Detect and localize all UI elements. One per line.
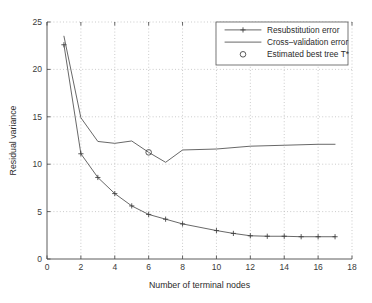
x-tick-label: 2	[79, 262, 84, 272]
legend-label: Resubstitution error	[267, 25, 340, 35]
residual-variance-chart: 024681012141618 0510152025 Number of ter…	[0, 0, 372, 303]
y-tick-label: 25	[33, 17, 43, 27]
legend-label: Estimated best tree T*	[267, 49, 350, 59]
x-axis-tick-labels: 024681012141618	[45, 262, 357, 272]
y-tick-label: 0	[37, 254, 42, 264]
x-tick-label: 6	[146, 262, 151, 272]
legend-label: Cross–validation error	[267, 37, 348, 47]
x-axis-title: Number of terminal nodes	[149, 280, 251, 290]
x-tick-label: 4	[112, 262, 117, 272]
y-tick-label: 5	[37, 207, 42, 217]
chart-legend[interactable]: Resubstitution errorCross–validation err…	[216, 22, 350, 65]
y-axis-title: Residual variance	[8, 105, 18, 175]
x-tick-label: 16	[313, 262, 323, 272]
x-tick-label: 0	[45, 262, 50, 272]
x-tick-label: 12	[246, 262, 256, 272]
y-tick-label: 10	[33, 159, 43, 169]
x-tick-label: 8	[180, 262, 185, 272]
y-axis-tick-labels: 0510152025	[33, 17, 43, 264]
x-tick-label: 14	[279, 262, 289, 272]
x-tick-label: 18	[347, 262, 357, 272]
y-tick-label: 20	[33, 64, 43, 74]
y-tick-label: 15	[33, 112, 43, 122]
chart-figure: 024681012141618 0510152025 Number of ter…	[0, 0, 372, 303]
x-tick-label: 10	[212, 262, 222, 272]
